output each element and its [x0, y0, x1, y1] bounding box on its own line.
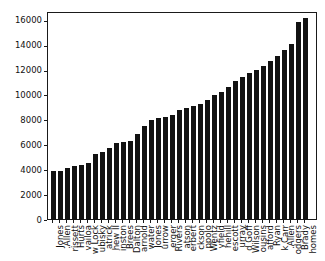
- x-tick-mark: [192, 220, 193, 223]
- x-tick-mark: [262, 220, 263, 223]
- bar: [177, 110, 182, 220]
- bar: [233, 81, 238, 220]
- x-tick-mark: [220, 220, 221, 223]
- y-tick-mark: [44, 195, 47, 196]
- x-tick-mark: [290, 220, 291, 223]
- bar: [191, 106, 196, 220]
- bar: [212, 95, 217, 220]
- bar: [247, 73, 252, 220]
- x-tick-mark: [157, 220, 158, 223]
- x-tick-mark: [178, 220, 179, 223]
- bar: [93, 154, 98, 220]
- x-tick-mark: [171, 220, 172, 223]
- x-tick-mark: [241, 220, 242, 223]
- bar: [86, 163, 91, 220]
- x-tick-mark: [283, 220, 284, 223]
- x-tick-mark: [129, 220, 130, 223]
- bar: [58, 171, 63, 220]
- y-tick-label: 6000: [0, 141, 42, 150]
- bar: [121, 142, 126, 220]
- x-tick-mark: [199, 220, 200, 223]
- bar: [184, 108, 189, 220]
- x-tick-mark: [52, 220, 53, 223]
- bar-chart-figure: 0200040006000800010000120001400016000 Jo…: [0, 0, 325, 261]
- bar: [268, 61, 273, 220]
- x-tick-mark: [213, 220, 214, 223]
- bar: [282, 50, 287, 220]
- x-tick-mark: [248, 220, 249, 223]
- bar: [226, 87, 231, 220]
- bar: [198, 104, 203, 220]
- y-tick-mark: [44, 145, 47, 146]
- bar: [156, 118, 161, 220]
- x-tick-mark: [143, 220, 144, 223]
- y-tick-label: 0: [0, 216, 42, 225]
- y-tick-mark: [44, 46, 47, 47]
- bar: [296, 22, 301, 220]
- x-tick-label: homes: [308, 225, 316, 254]
- y-tick-mark: [44, 170, 47, 171]
- x-tick-mark: [122, 220, 123, 223]
- y-tick-label: 2000: [0, 191, 42, 200]
- x-tick-mark: [115, 220, 116, 223]
- x-tick-mark: [101, 220, 102, 223]
- bar: [142, 126, 147, 220]
- x-tick-mark: [304, 220, 305, 223]
- x-tick-mark: [206, 220, 207, 223]
- x-tick-mark: [185, 220, 186, 223]
- y-tick-mark: [44, 21, 47, 22]
- bar: [72, 166, 77, 220]
- y-tick-mark: [44, 95, 47, 96]
- bar: [205, 100, 210, 220]
- x-tick-mark: [94, 220, 95, 223]
- x-tick-mark: [234, 220, 235, 223]
- bar: [170, 115, 175, 220]
- x-tick-mark: [87, 220, 88, 223]
- bar: [240, 77, 245, 220]
- bar: [303, 18, 308, 220]
- plot-area: [47, 12, 317, 220]
- y-tick-label: 16000: [0, 16, 42, 25]
- x-tick-mark: [80, 220, 81, 223]
- bar: [163, 117, 168, 220]
- x-tick-mark: [269, 220, 270, 223]
- bar: [128, 141, 133, 220]
- bar: [289, 44, 294, 220]
- y-tick-mark: [44, 71, 47, 72]
- bar: [65, 168, 70, 220]
- y-tick-label: 14000: [0, 41, 42, 50]
- bar: [79, 165, 84, 220]
- x-tick-mark: [227, 220, 228, 223]
- x-tick-mark: [59, 220, 60, 223]
- x-tick-mark: [255, 220, 256, 223]
- bar: [149, 120, 154, 220]
- x-tick-mark: [164, 220, 165, 223]
- y-tick-mark: [44, 120, 47, 121]
- x-tick-mark: [66, 220, 67, 223]
- bar: [254, 70, 259, 220]
- x-tick-mark: [297, 220, 298, 223]
- bar: [261, 66, 266, 220]
- y-tick-label: 4000: [0, 166, 42, 175]
- y-tick-label: 8000: [0, 116, 42, 125]
- x-tick-mark: [73, 220, 74, 223]
- bar: [219, 92, 224, 220]
- bar: [275, 56, 280, 220]
- bar: [135, 134, 140, 220]
- x-tick-mark: [136, 220, 137, 223]
- y-tick-label: 12000: [0, 66, 42, 75]
- y-tick-mark: [44, 220, 47, 221]
- bar: [100, 152, 105, 220]
- x-tick-mark: [276, 220, 277, 223]
- x-tick-mark: [150, 220, 151, 223]
- bar: [114, 143, 119, 220]
- bar: [51, 171, 56, 220]
- y-tick-label: 10000: [0, 91, 42, 100]
- bar: [107, 148, 112, 220]
- x-tick-mark: [108, 220, 109, 223]
